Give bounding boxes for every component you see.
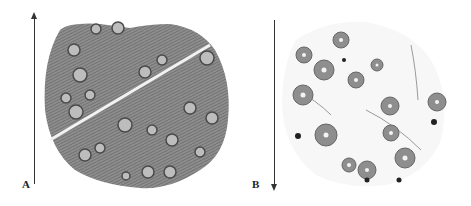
panel-b: B [236, 0, 471, 206]
tissue-section-b [236, 0, 471, 206]
panel-a: A [0, 0, 235, 206]
tissue-section-a [0, 0, 235, 206]
